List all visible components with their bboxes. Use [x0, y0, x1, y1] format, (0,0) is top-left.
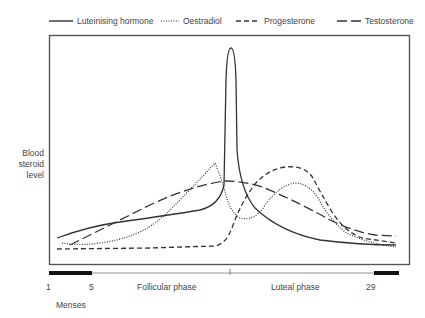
tick-label-1: 1	[46, 282, 51, 292]
testosterone-curve	[70, 181, 396, 245]
menses-bar-end	[374, 271, 399, 275]
luteal-phase-label: Luteal phase	[271, 282, 320, 292]
tick-label-29: 29	[366, 282, 375, 292]
tick-label-5: 5	[89, 282, 94, 292]
menses-bar-start	[49, 271, 92, 275]
menses-label: Menses	[56, 300, 86, 310]
chart-plot	[0, 0, 425, 318]
progesterone-curve	[57, 167, 396, 249]
follicular-phase-label: Follicular phase	[137, 282, 197, 292]
lh-curve	[57, 48, 396, 245]
